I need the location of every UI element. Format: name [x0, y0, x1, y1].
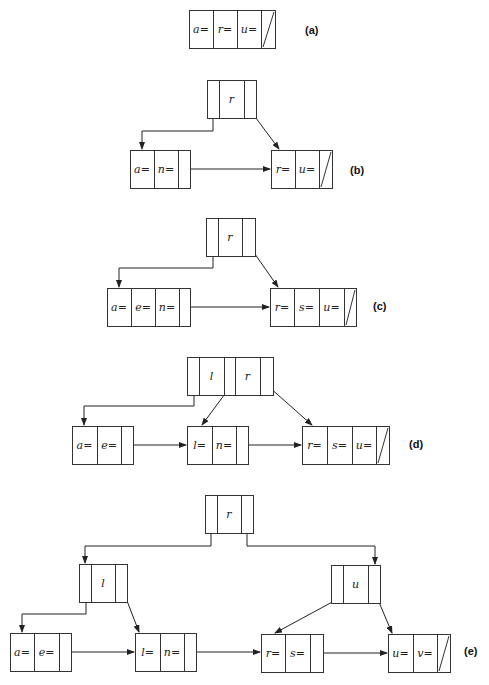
key-label: l=	[193, 439, 206, 452]
key-label: u=	[299, 163, 315, 176]
leaf-node: a=e=	[11, 634, 72, 672]
key-label: a=	[14, 646, 30, 659]
key-label: n=	[159, 301, 175, 314]
key-label: n=	[164, 646, 180, 659]
pointer-arrow	[119, 247, 213, 287]
key-label: a=	[111, 301, 127, 314]
internal-node: l	[80, 565, 128, 603]
key-label: e=	[135, 301, 151, 314]
panel-b: ra=n=r=u=(b)	[131, 81, 365, 189]
pointer-arrow	[142, 110, 213, 149]
internal-node: u	[332, 566, 381, 604]
leaf-node: a=e=n=	[108, 289, 191, 327]
panel-a: a=r=u=(a)	[190, 11, 319, 49]
key-label: u=	[323, 301, 339, 314]
pointer-arrow	[247, 527, 375, 564]
key-label: r=	[276, 163, 290, 176]
panels-layer: a=r=u=(a)ra=n=r=u=(b)ra=e=n=r=s=u=(c)lra…	[11, 11, 478, 673]
internal-node: lr	[188, 358, 274, 396]
key-label: u=	[356, 439, 372, 452]
leaf-node: u=v=	[389, 635, 451, 673]
pointer-arrow	[22, 596, 86, 632]
key-label: l	[210, 370, 214, 383]
panel-e: rlua=e=l=n=r=s=u=v=(e)	[11, 496, 478, 673]
internal-node: r	[207, 219, 256, 257]
key-label: l=	[141, 646, 154, 659]
key-label: r=	[218, 23, 232, 36]
panel-c: ra=e=n=r=s=u=(c)	[108, 219, 387, 327]
leaf-node: r=s=u=	[271, 289, 357, 327]
internal-node: r	[208, 81, 257, 119]
key-label: e=	[101, 439, 117, 452]
key-label: a=	[193, 23, 209, 36]
key-label: a=	[134, 163, 150, 176]
leaf-node: r=u=	[272, 151, 333, 189]
leaf-node: a=n=	[131, 151, 191, 189]
leaf-node: r=s=	[262, 635, 324, 673]
key-label: r	[229, 93, 235, 106]
key-label: r=	[275, 301, 289, 314]
key-label: s=	[332, 439, 347, 452]
leaf-node: r=s=u=	[303, 427, 390, 465]
panel-label: (b)	[350, 164, 364, 176]
internal-node: r	[206, 496, 254, 534]
key-label: l	[101, 577, 105, 590]
key-label: r	[227, 231, 233, 244]
key-label: a=	[77, 439, 93, 452]
bplus-tree-figure: a=r=u=(a)ra=n=r=u=(b)ra=e=n=r=s=u=(c)lra…	[0, 0, 489, 685]
key-label: e=	[39, 646, 55, 659]
pointer-arrow	[275, 600, 336, 633]
panel-label: (e)	[464, 645, 478, 657]
key-label: n=	[158, 163, 174, 176]
panel-label: (c)	[373, 300, 387, 312]
leaf-node: a=r=u=	[190, 11, 276, 49]
key-label: r=	[266, 647, 280, 660]
key-label: r	[226, 508, 232, 521]
panel-label: (d)	[409, 438, 423, 450]
key-label: u	[352, 578, 359, 591]
key-label: r	[245, 370, 251, 383]
panel-label: (a)	[305, 24, 319, 36]
leaf-node: l=n=	[188, 427, 249, 465]
panel-d: lra=e=l=n=r=s=u=(d)	[73, 358, 424, 465]
pointer-arrow	[85, 527, 211, 563]
key-label: r=	[307, 439, 321, 452]
leaf-node: l=n=	[136, 634, 197, 672]
key-label: s=	[290, 647, 305, 660]
pointer-arrow	[84, 387, 194, 425]
leaf-node: a=e=	[73, 427, 134, 465]
key-label: u=	[392, 647, 408, 660]
key-label: u=	[241, 23, 257, 36]
key-label: s=	[299, 301, 314, 314]
key-label: v=	[417, 647, 432, 660]
key-label: n=	[216, 439, 232, 452]
pointer-arrow	[269, 387, 312, 425]
